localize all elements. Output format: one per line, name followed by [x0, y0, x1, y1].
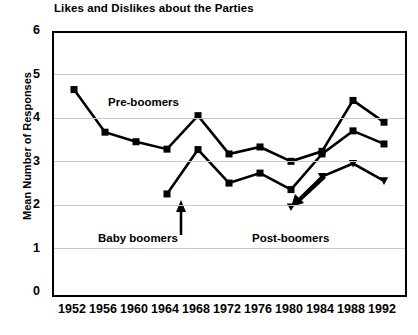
- y-axis-ticks: 0123456: [14, 0, 40, 335]
- gridline: [54, 74, 405, 75]
- data-point-marker: [257, 170, 264, 177]
- annotation-pointer-post-boomers: [291, 177, 325, 207]
- data-point-marker: [226, 150, 233, 157]
- data-point-marker: [164, 190, 171, 197]
- series-label-post-boomers: Post-boomers: [252, 232, 329, 244]
- plot-area: [52, 31, 407, 297]
- x-tick-label: 1956: [89, 303, 117, 316]
- x-tick-label: 1972: [213, 303, 241, 316]
- x-tick-label: 1964: [151, 303, 179, 316]
- data-point-marker: [195, 146, 202, 153]
- data-point-marker: [71, 86, 78, 93]
- x-tick-label: 1992: [368, 303, 396, 316]
- gridline: [54, 205, 405, 206]
- data-point-marker: [288, 186, 295, 193]
- data-point-marker: [381, 119, 388, 126]
- data-point-marker: [350, 127, 357, 134]
- y-tick-label: 3: [14, 155, 40, 168]
- x-tick-label: 1988: [337, 303, 365, 316]
- x-tick-label: 1960: [120, 303, 148, 316]
- chart-figure: Likes and Dislikes about the Parties Mea…: [0, 0, 418, 335]
- y-tick-label: 1: [14, 242, 40, 255]
- data-point-marker: [226, 180, 233, 187]
- chart-title: Likes and Dislikes about the Parties: [54, 2, 254, 14]
- gridline: [54, 248, 405, 249]
- data-point-marker: [381, 140, 388, 147]
- x-axis-ticks: 1952195619601964196819721976198019841988…: [52, 303, 407, 323]
- y-tick-label: 0: [14, 285, 40, 298]
- series-layer: [54, 33, 404, 294]
- gridline: [54, 161, 405, 162]
- y-tick-label: 4: [14, 111, 40, 124]
- data-point-marker: [257, 143, 264, 150]
- data-point-marker: [380, 177, 388, 185]
- data-point-marker: [319, 150, 326, 157]
- y-tick-label: 2: [14, 198, 40, 211]
- x-tick-label: 1984: [306, 303, 334, 316]
- data-point-marker: [133, 138, 140, 145]
- y-tick-label: 5: [14, 68, 40, 81]
- series-label-pre-boomers: Pre-boomers: [108, 96, 179, 108]
- data-point-marker: [164, 146, 171, 153]
- series-label-baby-boomers: Baby boomers: [98, 232, 178, 244]
- x-tick-label: 1980: [275, 303, 303, 316]
- data-point-marker: [350, 97, 357, 104]
- x-tick-label: 1968: [182, 303, 210, 316]
- x-tick-label: 1952: [58, 303, 86, 316]
- y-tick-label: 6: [14, 24, 40, 37]
- gridline: [54, 118, 405, 119]
- data-point-marker: [102, 129, 109, 136]
- x-tick-label: 1976: [244, 303, 272, 316]
